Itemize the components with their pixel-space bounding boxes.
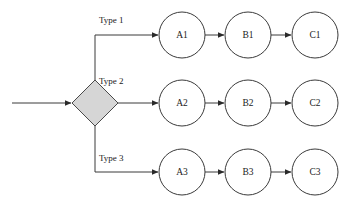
diagram-canvas: A1 B1 C1 A2 B2 C2 A3 B3 C3 Type 1 Type 2… bbox=[0, 0, 350, 204]
node-c1-label: C1 bbox=[309, 30, 320, 40]
decision-diamond bbox=[72, 80, 118, 126]
node-b3-label: B3 bbox=[242, 167, 253, 177]
branch-3-label: Type 3 bbox=[99, 153, 124, 163]
node-b1-label: B1 bbox=[242, 30, 253, 40]
node-a1-label: A1 bbox=[176, 30, 188, 40]
node-a3-label: A3 bbox=[176, 167, 188, 177]
branch-1-label: Type 1 bbox=[99, 15, 124, 25]
node-c3-label: C3 bbox=[309, 167, 320, 177]
node-a2-label: A2 bbox=[176, 98, 188, 108]
node-c2-label: C2 bbox=[309, 98, 320, 108]
branch-2-label: Type 2 bbox=[99, 76, 124, 86]
flow-diagram: A1 B1 C1 A2 B2 C2 A3 B3 C3 Type 1 Type 2… bbox=[0, 0, 350, 204]
node-b2-label: B2 bbox=[242, 98, 253, 108]
